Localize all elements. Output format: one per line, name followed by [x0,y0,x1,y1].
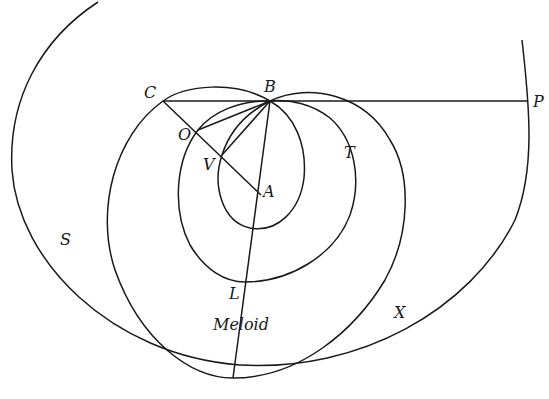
geometry-diagram: B C P O V A T S L X Meloid [0,0,549,399]
label-s: S [60,230,71,249]
label-t: T [344,143,356,162]
label-b: B [263,77,276,96]
segment-b-v [222,101,270,155]
segment-b-bottom [233,101,270,378]
label-o: O [178,125,191,144]
label-meloid: Meloid [212,315,269,334]
label-v: V [203,155,216,174]
label-c: C [144,83,156,102]
outer-meloid-curve [107,87,405,378]
label-p: P [532,92,544,111]
label-x: X [392,303,406,322]
label-l: L [228,284,240,303]
segment-c-a [163,101,261,195]
label-a: A [261,182,275,201]
